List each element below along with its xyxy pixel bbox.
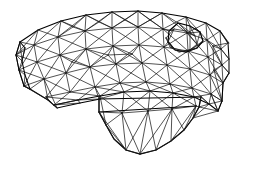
wireframe-viewport — [0, 0, 255, 170]
wireframe-mesh-figure — [0, 0, 255, 170]
